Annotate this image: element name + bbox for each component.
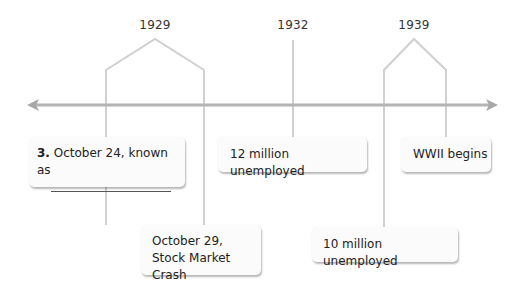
year-label-1929: 1929	[139, 18, 170, 32]
bracket-1939	[384, 39, 446, 227]
event-text: 10 million unemployed	[323, 237, 398, 268]
answer-blank[interactable]	[51, 191, 171, 192]
event-box-october-24: 3. October 24, known as	[29, 137, 185, 187]
event-text: WWII begins	[413, 147, 487, 161]
event-text: 12 million unemployed	[230, 147, 305, 178]
event-text-line2: Stock Market Crash	[152, 250, 261, 284]
event-box-12-million: 12 million unemployed	[218, 137, 367, 172]
event-text: October 24, known as	[37, 146, 168, 177]
event-text-line1: October 29,	[152, 233, 261, 250]
event-box-10-million: 10 million unemployed	[312, 227, 458, 262]
year-label-1932: 1932	[277, 18, 308, 32]
year-label-1939: 1939	[398, 18, 429, 32]
event-box-october-29: October 29, Stock Market Crash	[141, 225, 261, 275]
bracket-1929	[106, 39, 204, 225]
question-number: 3.	[37, 146, 50, 160]
event-box-wwii: WWII begins	[401, 137, 491, 172]
